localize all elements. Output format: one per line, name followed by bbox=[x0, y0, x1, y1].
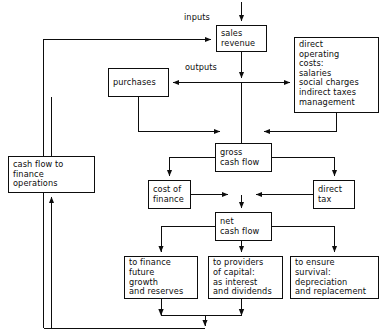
edge-net-cash-flow-to-ensure-survival bbox=[272, 227, 335, 253]
node-sales-revenue[interactable]: sales revenue bbox=[216, 25, 267, 52]
node-direct-operating-costs[interactable]: direct operating costs: salaries social … bbox=[294, 37, 379, 113]
node-cash-flow-to-finance-operations[interactable]: cash flow to finance operations bbox=[8, 156, 95, 193]
node-cost-of-finance[interactable]: cost of finance bbox=[148, 180, 191, 209]
node-net-cash-flow[interactable]: net cash flow bbox=[215, 212, 272, 241]
flowchart-diagram: sales revenue direct operating costs: sa… bbox=[0, 0, 382, 334]
edge-gross-cash-flow-to-cost-of-finance bbox=[170, 158, 216, 177]
node-direct-tax[interactable]: direct tax bbox=[313, 180, 355, 209]
page-top-partial-text bbox=[6, 0, 336, 6]
edge-label-inputs: inputs bbox=[183, 13, 211, 23]
edge-label-outputs: outputs bbox=[184, 63, 218, 73]
node-to-ensure-survival[interactable]: to ensure survival: depreciation and rep… bbox=[290, 256, 379, 299]
node-purchases[interactable]: purchases bbox=[108, 68, 169, 97]
edge-gross-cash-flow-to-direct-tax bbox=[272, 158, 335, 177]
edge-purchases-to-gross-cash-flow bbox=[139, 97, 221, 132]
node-to-providers-of-capital[interactable]: to providers of capital: as interest and… bbox=[208, 256, 283, 299]
edge-direct-operating-costs-to-gross-cash-flow bbox=[264, 113, 337, 132]
edge-net-cash-flow-to-finance-future-growth bbox=[161, 227, 215, 253]
node-to-finance-future-growth[interactable]: to finance future growth and reserves bbox=[124, 256, 198, 299]
node-gross-cash-flow[interactable]: gross cash flow bbox=[215, 143, 272, 172]
